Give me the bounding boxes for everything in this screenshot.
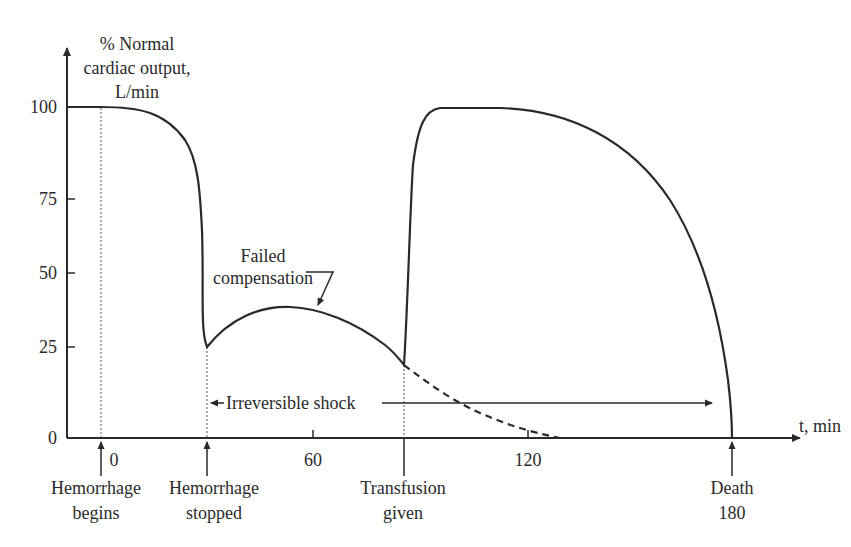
- failed-compensation-line-2: compensation: [213, 268, 313, 288]
- event-transfusion-given: Transfusion given: [360, 438, 445, 523]
- y-axis-label-line-2: cardiac output,: [84, 58, 191, 78]
- x-tick-label-120: 120: [515, 450, 542, 470]
- x-tick-label-0: 0: [110, 450, 119, 470]
- hemorrhage-begins-line-1: Hemorrhage: [51, 478, 141, 498]
- y-axis-label-line-3: L/min: [115, 82, 159, 102]
- death-line-2: 180: [719, 503, 746, 523]
- y-tick-label-0: 0: [48, 428, 57, 448]
- x-tick-label-60: 60: [304, 450, 322, 470]
- failed-compensation-line-1: Failed: [241, 246, 286, 266]
- y-tick-label-75: 75: [39, 189, 57, 209]
- cardiac-output-chart: 100 75 50 25 0 0 60 120 % Normal cardiac…: [0, 0, 851, 547]
- y-tick-label-50: 50: [39, 263, 57, 283]
- y-tick-label-100: 100: [30, 97, 57, 117]
- irreversible-shock-label: Irreversible shock: [226, 393, 355, 413]
- axes: [67, 48, 800, 438]
- hemorrhage-stopped-line-2: stopped: [186, 503, 242, 523]
- irreversible-shock-annotation: Irreversible shock: [211, 393, 712, 413]
- failed-compensation-annotation: Failed compensation: [213, 246, 333, 305]
- x-ticks: 0 60 120: [110, 430, 542, 470]
- event-hemorrhage-stopped: Hemorrhage stopped: [169, 442, 259, 523]
- y-axis-label-line-1: % Normal: [100, 34, 174, 54]
- x-axis-label: t, min: [799, 416, 841, 436]
- no-transfusion-dashed-curve: [404, 365, 560, 438]
- cardiac-output-curve: [67, 107, 732, 438]
- y-tick-label-25: 25: [39, 337, 57, 357]
- transfusion-given-line-1: Transfusion: [360, 478, 445, 498]
- y-axis-label: % Normal cardiac output, L/min: [84, 34, 191, 102]
- death-line-1: Death: [711, 478, 754, 498]
- event-death: Death 180: [711, 442, 754, 523]
- hemorrhage-stopped-line-1: Hemorrhage: [169, 478, 259, 498]
- y-ticks: 100 75 50 25 0: [30, 97, 75, 448]
- transfusion-given-line-2: given: [383, 503, 423, 523]
- event-hemorrhage-begins: Hemorrhage begins: [51, 442, 141, 523]
- hemorrhage-begins-line-2: begins: [73, 503, 120, 523]
